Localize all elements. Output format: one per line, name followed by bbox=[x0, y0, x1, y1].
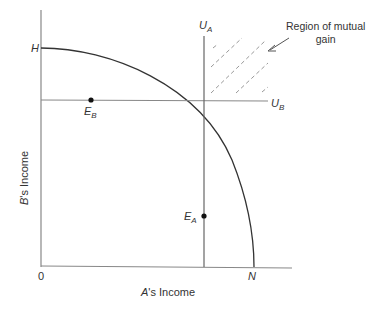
annotation-line-2: gain bbox=[286, 33, 365, 46]
curve-top-label: H bbox=[31, 42, 39, 54]
curve-bottom-label: N bbox=[248, 270, 256, 282]
y-axis-label: B's Income bbox=[18, 138, 30, 218]
ua-label: UA bbox=[199, 19, 212, 34]
x-axis-label: A's Income bbox=[141, 286, 195, 298]
mutual-gain-hatch bbox=[211, 38, 268, 93]
ub-label: UB bbox=[271, 97, 284, 112]
eb-label: EB bbox=[84, 105, 97, 120]
ub-line bbox=[41, 100, 268, 101]
arrow-head-icon bbox=[268, 45, 276, 51]
diagram-canvas bbox=[0, 0, 375, 309]
ea-label: EA bbox=[184, 210, 197, 225]
ea-point bbox=[201, 213, 206, 218]
frontier-curve bbox=[41, 48, 254, 267]
origin-label: 0 bbox=[38, 270, 44, 282]
annotation-line-1: Region of mutual bbox=[286, 20, 365, 33]
mutual-gain-annotation: Region of mutual gain bbox=[286, 20, 365, 46]
eb-point bbox=[88, 97, 93, 102]
